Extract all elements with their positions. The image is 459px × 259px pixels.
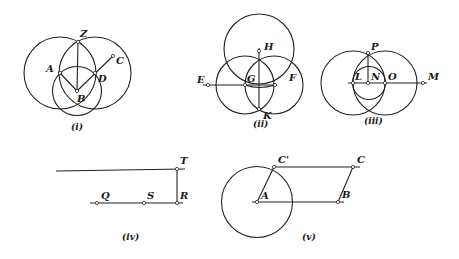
point-r — [175, 201, 178, 204]
label-f: F — [288, 72, 297, 83]
geometry-constructions: Z A D B C (i) H E G F K (ii) — [0, 0, 459, 259]
point-n — [366, 81, 369, 84]
label-p: P — [370, 41, 379, 52]
caption-v: (v) — [302, 232, 316, 242]
label-d: D — [97, 73, 107, 84]
label-a: A — [45, 63, 54, 74]
point-b — [336, 200, 339, 203]
label-z: Z — [79, 28, 88, 39]
caption-ii: (ii) — [253, 119, 268, 129]
label-r: R — [179, 190, 188, 201]
segment-zb — [77, 42, 78, 91]
figure-iii: P L N O M (iii) — [321, 41, 440, 126]
point-s — [142, 201, 145, 204]
point-o — [383, 81, 386, 84]
point-c — [351, 165, 354, 168]
figure-iv: T Q S R (iv) — [56, 155, 189, 242]
point-z — [76, 40, 79, 43]
label-b: B — [341, 189, 350, 200]
label-m: M — [427, 71, 440, 82]
line-through-t — [56, 169, 185, 171]
point-p — [366, 51, 369, 54]
label-g: G — [247, 73, 256, 84]
label-c: C — [116, 55, 124, 66]
point-t — [175, 167, 178, 170]
point-k — [257, 107, 260, 110]
point-a — [58, 71, 61, 74]
point-a — [255, 200, 258, 203]
point-f — [273, 83, 276, 86]
caption-iv: (iv) — [122, 232, 139, 242]
point-c-prime — [272, 165, 275, 168]
point-h — [257, 49, 260, 52]
label-s: S — [147, 190, 154, 201]
point-e — [206, 83, 209, 86]
label-c-prime: C' — [278, 154, 289, 165]
label-h: H — [263, 41, 274, 52]
point-d — [93, 71, 96, 74]
point-c — [111, 54, 114, 57]
label-n: N — [370, 71, 381, 82]
label-e: E — [196, 74, 205, 85]
figure-i: Z A D B C (i) — [24, 28, 131, 132]
caption-iii: (iii) — [364, 116, 383, 126]
figure-v: C' C A B (v) — [222, 154, 366, 242]
label-o: O — [388, 71, 397, 82]
label-a: A — [260, 190, 269, 201]
label-c: C — [357, 154, 365, 165]
label-b: B — [76, 93, 85, 104]
point-m — [421, 81, 424, 84]
point-q — [95, 201, 98, 204]
figure-ii: H E G F K (ii) — [196, 14, 303, 129]
label-l: L — [354, 71, 362, 82]
label-t: T — [180, 155, 189, 166]
label-q: Q — [101, 190, 110, 201]
caption-i: (i) — [71, 122, 83, 132]
